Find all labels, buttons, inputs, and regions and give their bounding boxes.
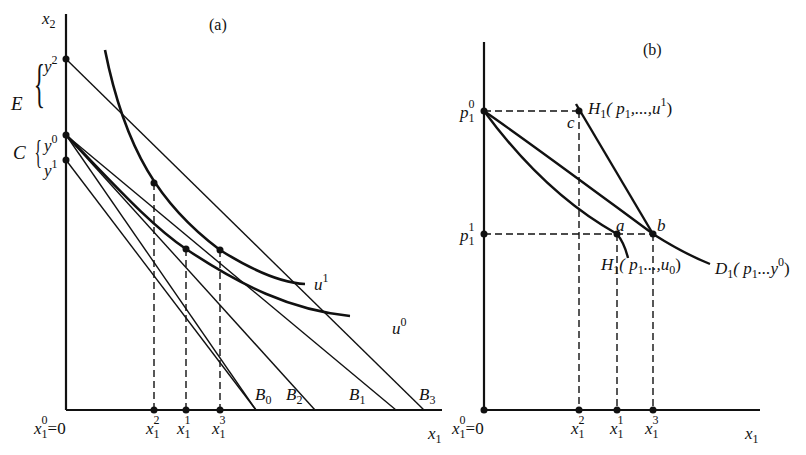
brace-c: { [34,135,41,169]
label-sub: 1 [42,427,48,441]
label-subsup: 11 [469,234,475,248]
x-tick-label-x1-2: x21 [146,420,160,440]
panel-b-x-axis-label: x1 [745,425,759,445]
label-args: ( p [733,259,751,278]
label-sup: 2 [579,414,585,426]
label-sup: 1 [185,414,191,426]
label-args-rest: ,...,u [631,99,661,118]
panel-a-origin-label: x01=0 [34,420,66,440]
curve-label-hicksian-u1: H1( p1,...,u1) [588,96,672,120]
label-sub: 2 [296,393,302,407]
label-subsup: 01 [42,427,48,441]
label-sup: 0 [42,414,48,426]
label-sub: 1 [154,427,160,441]
label-base: B [255,385,265,404]
label-base: B [286,385,296,404]
label-args-rest: ...,u [644,255,670,274]
label-sup: 1 [469,221,475,233]
tangency-point-2 [151,180,158,187]
label-base: x [428,424,436,443]
indifference-curve-u0 [66,135,350,316]
label-base: y [44,161,52,180]
label-base: x [34,419,42,438]
point-c [576,108,583,115]
indifference-curve-u1 [105,50,305,284]
label-subsup: 21 [154,427,160,441]
label-sub: 0 [265,393,271,407]
point-label-b: b [657,217,666,234]
label-args-rest: ...y [758,259,778,278]
b-x-tick-label-x1-2: x21 [571,420,585,440]
label-base: p [460,226,469,245]
label-sub: 1 [185,427,191,441]
brace-label-c: C [13,143,26,162]
budget-line-b0 [66,160,256,410]
label-sub: 2 [50,17,56,31]
label-subsup: 31 [220,427,226,441]
label-subsup: 01 [469,111,475,125]
brace-label-e: E [11,94,23,113]
point-p1-0 [481,108,488,115]
point-label-a: a [616,217,625,234]
label-base: u [392,319,401,338]
budget-line-b2 [66,135,315,410]
label-base: x [610,419,618,438]
label-suffix: =0 [48,419,66,438]
point-b [650,231,657,238]
diagram-canvas [0,0,806,455]
label-sub: 1 [359,393,365,407]
label-close: ) [784,259,790,278]
label-subsup: 11 [185,427,191,441]
label-base: p [460,103,469,122]
income-label-y2: y2 [44,54,58,75]
label-sup: 1 [52,157,58,171]
panel-b-origin-label: x01=0 [452,420,484,440]
label-base: x [146,419,154,438]
budget-line-b0-steep [66,135,256,410]
budget-line-b1 [66,135,396,410]
label-sup: 2 [52,53,58,67]
label-sub: 1 [469,234,475,248]
label-base: x [745,424,753,443]
indifference-label-u0: u0 [392,316,407,337]
label-base: x [645,419,653,438]
panel-a-x-axis-label: x1 [428,425,442,445]
label-sup: 0 [460,414,466,426]
label-args: ( p [606,99,624,118]
label-base: x [452,419,460,438]
x-tick-label-x1-1: x11 [177,420,191,440]
point-p1-1 [481,231,488,238]
label-sub: 1 [220,427,226,441]
label-subsup: 01 [460,427,466,441]
label-suffix: =0 [466,419,484,438]
label-base: B [419,385,429,404]
label-sub: 3 [429,393,435,407]
budget-label-b0: B0 [255,386,271,406]
point-y2 [63,56,70,63]
label-sup: 1 [618,414,624,426]
label-sub: 1 [753,432,759,446]
label-sup: 0 [52,132,58,146]
x-tick-label-x1-3: x31 [212,420,226,440]
price-label-p1-0: p01 [460,104,475,124]
income-label-y0: y0 [44,133,58,154]
label-sup: 0 [401,315,407,329]
label-close: ) [666,99,672,118]
panel-b-tag: (b) [643,42,662,58]
label-sup: 3 [653,414,659,426]
origin-point-b [481,407,488,414]
panel-a-tag: (a) [209,17,227,33]
label-subsup: 31 [653,427,659,441]
label-base: x [571,419,579,438]
point-y0 [63,132,70,139]
label-close: ) [675,255,681,274]
label-sub: 1 [579,427,585,441]
budget-label-b1: B1 [349,386,365,406]
label-base: H [601,255,613,274]
label-sup: 2 [154,414,160,426]
panel-a-graphics [63,14,443,414]
tangency-point-1 [183,246,190,253]
label-base: x [177,419,185,438]
b-x-tick-label-x1-1: x11 [610,420,624,440]
label-sub: 1 [460,427,466,441]
